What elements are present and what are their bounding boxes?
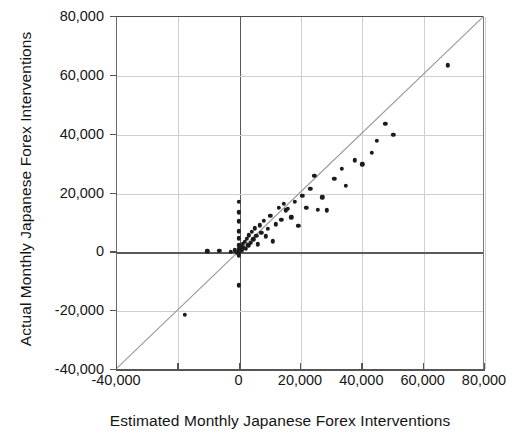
y-axis-tick [110,75,117,76]
x-axis-tick [423,363,424,370]
x-axis-tick-label: 0 [235,372,243,388]
x-axis-tick [177,363,178,370]
x-axis-tick-label: 80,000 [462,372,506,388]
y-axis-tick-label: -20,000 [0,302,104,318]
x-axis-tick [484,363,485,370]
y-axis-tick-label: 0 [0,243,104,259]
y-axis-tick-label: -40,000 [0,361,104,377]
y-axis-tick [110,16,117,17]
y-axis-tick [110,310,117,311]
scatter-plot-figure: Actual Monthly Japanese Forex Interventi… [0,0,520,444]
x-axis-title: Estimated Monthly Japanese Forex Interve… [60,412,500,430]
y-axis-tick [110,193,117,194]
identity-reference-line [116,16,484,369]
x-axis-tick-label: 40,000 [339,372,383,388]
y-axis-tick-label: 40,000 [0,126,104,142]
x-axis-tick [300,363,301,370]
x-axis-tick [361,363,362,370]
x-axis-tick [239,363,240,370]
x-axis-tick-label: 20,000 [278,372,322,388]
y-axis-tick [110,251,117,252]
y-axis-tick-label: 80,000 [0,8,104,24]
y-axis-tick-label: 20,000 [0,185,104,201]
vertical-gridline [485,17,486,369]
y-axis-tick [110,134,117,135]
reference-line-svg [116,16,484,369]
diagonal-line [116,16,484,369]
y-axis-tick [110,369,117,370]
x-axis-tick-label: 60,000 [400,372,444,388]
y-axis-tick-label: 60,000 [0,67,104,83]
